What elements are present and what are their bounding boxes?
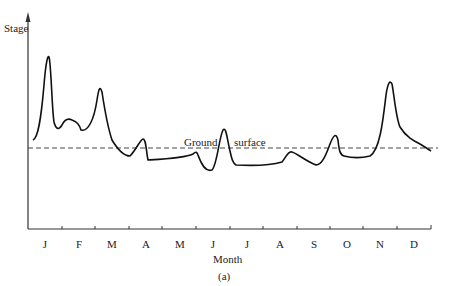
x-tick-label: A [142,238,150,250]
x-tick-label: S [311,238,317,250]
ground-annotation-part1: Ground [184,136,218,148]
x-tick-label: F [76,238,82,250]
x-tick-label: J [211,238,215,250]
figure-caption: (a) [218,270,230,282]
x-tick-label: M [175,238,185,250]
x-tick-label: J [245,238,249,250]
x-tick-label: N [376,238,384,250]
ground-annotation-part2: surface [234,136,266,148]
x-tick-label: M [107,238,117,250]
x-axis-label: Month [213,253,242,265]
x-tick-label: A [276,238,284,250]
x-tick-label: O [343,238,351,250]
x-tick-label: J [43,238,47,250]
stage-curve [33,57,431,171]
y-axis-arrow-icon [26,12,31,22]
x-tick-label: D [410,238,418,250]
y-axis-label: Stage [4,22,28,34]
